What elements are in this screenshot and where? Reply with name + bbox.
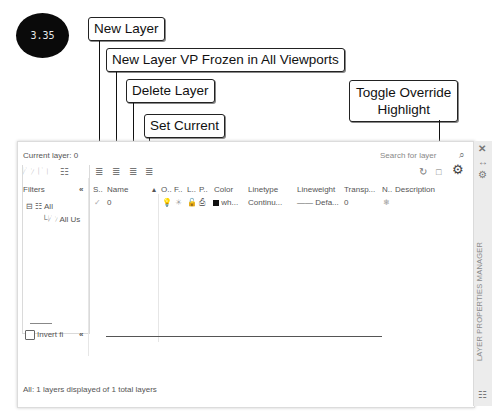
- layer-palette-icon[interactable]: ☷: [478, 389, 487, 400]
- column-lineweight[interactable]: Lineweight: [297, 185, 335, 194]
- column-new-vp-freeze[interactable]: N..: [382, 185, 392, 194]
- collapse-button[interactable]: «: [79, 330, 83, 339]
- palette-title: LAYER PROPERTIES MANAGER: [475, 261, 491, 361]
- refresh-icon[interactable]: ↻: [419, 167, 427, 177]
- leader-line: [116, 72, 117, 152]
- color-cell[interactable]: wh...: [213, 198, 238, 207]
- column-transparency[interactable]: Transp...: [344, 185, 375, 194]
- layer-name[interactable]: 0: [107, 198, 111, 207]
- unlock-icon[interactable]: 🔓: [187, 198, 197, 207]
- settings-gear-icon[interactable]: ⚙: [452, 165, 464, 175]
- column-on[interactable]: O..: [161, 185, 172, 194]
- search-icon[interactable]: ⌕: [459, 150, 465, 160]
- column-name[interactable]: Name: [107, 185, 128, 194]
- transparency-cell[interactable]: 0: [344, 198, 348, 207]
- color-swatch: [213, 200, 219, 206]
- filter-icon: 🗁: [48, 215, 58, 224]
- status-bar-text: All: 1 layers displayed of 1 total layer…: [23, 385, 157, 394]
- close-icon[interactable]: ✕: [478, 143, 486, 154]
- column-plot[interactable]: P..: [199, 185, 208, 194]
- divider: [158, 194, 159, 342]
- sort-indicator: ▴: [152, 185, 156, 194]
- tree-item-all[interactable]: ⊟ ☷ All: [26, 202, 53, 211]
- lineweight-cell[interactable]: —— Defa...: [297, 198, 339, 207]
- callout-line: Highlight: [356, 101, 451, 118]
- horizontal-scrollbar[interactable]: [106, 336, 382, 337]
- tree-label: All Us: [59, 215, 80, 224]
- status-current-icon: ✓: [94, 198, 101, 207]
- callout-set-current: Set Current: [144, 114, 225, 138]
- freeze-sun-icon[interactable]: ☀: [175, 198, 182, 207]
- new-layer-vp-frozen-icon[interactable]: ≣: [112, 167, 120, 177]
- filters-label: Filters: [23, 185, 45, 194]
- column-linetype[interactable]: Linetype: [248, 185, 278, 194]
- delete-layer-icon[interactable]: ≣: [129, 167, 137, 177]
- callout-new-layer-vp-frozen: New Layer VP Frozen in All Viewports: [106, 48, 345, 72]
- layer-properties-manager: Current layer: 0 Search for layer ⌕ 🗁 🗀 …: [17, 141, 475, 408]
- plot-printer-icon[interactable]: ⎙: [199, 198, 205, 208]
- auto-hide-icon[interactable]: ↔: [478, 156, 488, 167]
- figure-number-badge: 3.35: [16, 13, 69, 58]
- collapse-filters-button[interactable]: «: [79, 185, 83, 194]
- column-color[interactable]: Color: [214, 185, 233, 194]
- tree-expander-icon[interactable]: ⊟: [26, 202, 33, 211]
- new-vp-freeze-icon[interactable]: ❄: [383, 198, 390, 207]
- invert-filter-label: Invert fi: [37, 330, 63, 339]
- new-layer-icon[interactable]: ≣: [95, 167, 103, 177]
- column-lock[interactable]: L..: [187, 185, 196, 194]
- on-off-bulb-icon[interactable]: 💡: [162, 198, 172, 207]
- linetype-cell[interactable]: Continu...: [248, 198, 282, 207]
- divider: [88, 178, 89, 356]
- column-description[interactable]: Description: [395, 185, 435, 194]
- column-freeze[interactable]: F..: [174, 185, 182, 194]
- invert-filter-checkbox[interactable]: [25, 330, 35, 340]
- leader-line: [99, 41, 100, 152]
- column-status[interactable]: S..: [93, 185, 103, 194]
- tree-item-all-used[interactable]: └🗁 All Us: [42, 213, 80, 227]
- filter-icon: ☷: [35, 202, 42, 211]
- palette-title-bar[interactable]: ✕ ↔ ⚙ LAYER PROPERTIES MANAGER ☷: [473, 141, 492, 406]
- current-layer-label: Current layer: 0: [23, 151, 78, 160]
- callout-delete-layer: Delete Layer: [126, 79, 215, 103]
- filters-scrollbar[interactable]: [30, 323, 52, 324]
- set-current-icon[interactable]: ≣: [145, 167, 153, 177]
- callout-line: Toggle Override: [356, 84, 451, 101]
- toggle-override-highlight-icon[interactable]: □: [436, 167, 441, 177]
- color-name: wh...: [221, 198, 238, 207]
- callout-new-layer: New Layer: [88, 17, 165, 41]
- properties-icon[interactable]: ⚙: [478, 169, 487, 180]
- tree-label: All: [44, 202, 53, 211]
- search-input[interactable]: Search for layer: [380, 151, 436, 160]
- callout-toggle-override-highlight: Toggle Override Highlight: [349, 80, 458, 122]
